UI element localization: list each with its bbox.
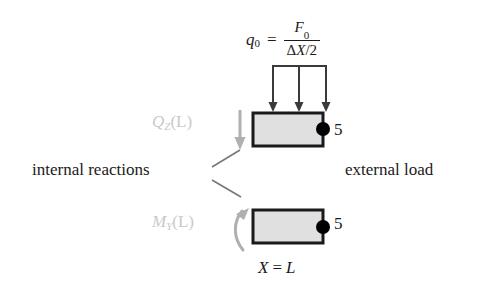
position-value: L	[286, 258, 295, 277]
moment-arrow-group	[235, 208, 249, 250]
moment-subscript: Y	[166, 220, 172, 232]
moment-argument: (L)	[172, 212, 194, 231]
top-beam-block-group	[253, 113, 330, 146]
shear-force-label: QZ(L)	[152, 112, 192, 132]
formula-denominator-delta: Δ	[287, 42, 297, 58]
bottom-beam-block-group	[253, 210, 330, 243]
external-load-label: external load	[345, 160, 433, 180]
shear-force-arrow-group	[235, 110, 246, 150]
load-arrow-head-left	[269, 102, 278, 112]
internal-reactions-label: internal reactions	[32, 160, 150, 180]
formula-fraction: F0 ΔX/2	[284, 19, 321, 58]
top-beam-block	[253, 113, 323, 146]
position-label: X=L	[258, 258, 295, 278]
top-node-dot	[316, 122, 330, 136]
position-variable: X	[258, 258, 268, 277]
shear-arrow-head	[235, 137, 246, 150]
load-arrow-head-center	[295, 102, 304, 112]
formula-lhs-symbol: q	[246, 30, 255, 50]
shear-force-symbol: Q	[152, 112, 164, 131]
bottom-beam-block	[253, 210, 323, 243]
diagram-canvas: q0 = F0 ΔX/2 QZ(L) MY(L) internal reacti…	[0, 0, 501, 296]
formula-equals-sign: =	[267, 30, 277, 50]
formula-lhs-subscript: 0	[255, 37, 261, 49]
formula-numerator-subscript: 0	[304, 29, 310, 41]
shear-force-argument: (L)	[170, 112, 192, 131]
distributed-load-formula: q0 = F0 ΔX/2	[246, 20, 320, 59]
distributed-load-group	[269, 66, 331, 112]
position-equals-sign: =	[272, 258, 282, 277]
moment-symbol: M	[152, 212, 166, 231]
bottom-node-number: 5	[334, 214, 343, 234]
shear-force-subscript: Z	[164, 120, 170, 132]
formula-denominator: ΔX/2	[284, 41, 321, 58]
formula-numerator-symbol: F	[295, 19, 304, 35]
top-node-number: 5	[334, 120, 343, 140]
leader-line-to-moment	[212, 180, 241, 197]
load-arrow-head-right	[322, 102, 331, 112]
leader-lines-group	[212, 150, 241, 197]
formula-denominator-divisor: /2	[305, 42, 317, 58]
moment-label: MY(L)	[152, 212, 194, 232]
bottom-node-dot	[316, 220, 330, 234]
leader-line-to-shear	[212, 150, 240, 167]
formula-numerator: F0	[292, 19, 313, 40]
